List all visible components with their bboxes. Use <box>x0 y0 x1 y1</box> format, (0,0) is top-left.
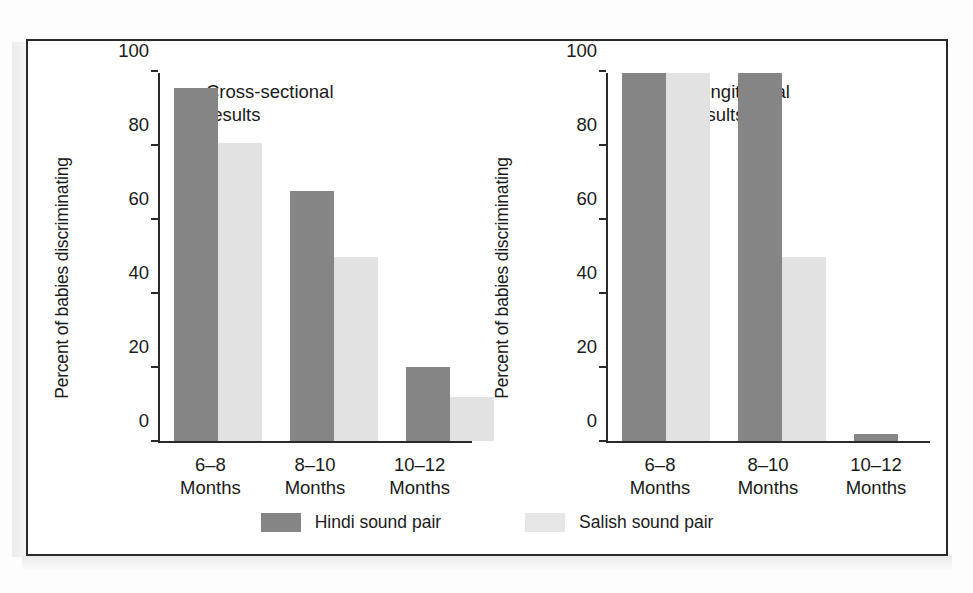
bar-group-6-8-months <box>622 73 710 441</box>
legend-item-hindi[interactable]: Hindi sound pair <box>261 512 441 533</box>
figure-frame: Percent of babies discriminating Cross-s… <box>26 39 948 556</box>
bar-hindi[interactable] <box>622 73 666 441</box>
bar-salish[interactable] <box>666 73 710 441</box>
panel-cross-sectional: Percent of babies discriminating Cross-s… <box>38 53 478 483</box>
legend-item-salish[interactable]: Salish sound pair <box>525 512 713 533</box>
bar-group-6-8-months <box>174 73 262 441</box>
bar-groups-cross-sectional <box>160 73 458 441</box>
x-label-6-8-months: 6–8 Months <box>172 453 249 499</box>
x-label-6-8-months: 6–8 Months <box>620 453 700 499</box>
bar-group-8-10-months <box>290 73 378 441</box>
x-label-8-10-months: 8–10 Months <box>728 453 808 499</box>
legend-swatch-salish-icon <box>525 513 565 532</box>
y-tick-mark <box>151 366 158 368</box>
chart-legend: Hindi sound pair Salish sound pair <box>28 509 946 535</box>
y-axis-label-cross-sectional: Percent of babies discriminating <box>52 113 78 443</box>
y-tick-mark <box>599 70 606 72</box>
bar-salish[interactable] <box>334 257 378 441</box>
scan-page: Percent of babies discriminating Cross-s… <box>0 0 973 593</box>
plot-area-longitudinal: 0 20 40 60 80 100 <box>606 73 916 443</box>
bar-group-10-12-months <box>854 73 942 441</box>
x-label-10-12-months: 10–12 Months <box>836 453 916 499</box>
legend-swatch-hindi-icon <box>261 513 301 532</box>
y-tick-mark <box>599 440 606 442</box>
y-tick-label-100: 100 <box>566 40 597 62</box>
bar-hindi[interactable] <box>174 88 218 441</box>
y-tick-label-100: 100 <box>118 40 149 62</box>
y-tick-label-60: 60 <box>128 188 149 210</box>
y-tick-label-60: 60 <box>576 188 597 210</box>
panel-longitudinal: Percent of babies discriminating Longitu… <box>478 53 940 483</box>
x-label-8-10-months: 8–10 Months <box>277 453 354 499</box>
scan-shadow-bottom <box>22 556 952 570</box>
y-tick-mark <box>151 292 158 294</box>
y-tick-mark <box>151 144 158 146</box>
x-label-10-12-months: 10–12 Months <box>381 453 458 499</box>
y-tick-mark <box>151 70 158 72</box>
bar-hindi[interactable] <box>290 191 334 441</box>
y-tick-label-0: 0 <box>587 410 597 432</box>
x-axis-labels-longitudinal: 6–8 Months 8–10 Months 10–12 Months <box>608 443 916 499</box>
y-tick-mark <box>599 366 606 368</box>
bar-hindi[interactable] <box>854 434 898 441</box>
y-tick-label-80: 80 <box>576 114 597 136</box>
y-tick-mark <box>151 440 158 442</box>
y-tick-label-20: 20 <box>576 336 597 358</box>
bar-salish[interactable] <box>782 257 826 441</box>
bar-hindi[interactable] <box>738 73 782 441</box>
bar-groups-longitudinal <box>608 73 916 441</box>
bar-hindi[interactable] <box>406 367 450 441</box>
bar-salish[interactable] <box>218 143 262 441</box>
plot-area-cross-sectional: 0 20 40 60 80 100 <box>158 73 458 443</box>
legend-label-hindi: Hindi sound pair <box>315 512 441 533</box>
y-tick-mark <box>599 292 606 294</box>
y-tick-mark <box>599 144 606 146</box>
y-axis-label-longitudinal: Percent of babies discriminating <box>492 113 518 443</box>
y-tick-label-80: 80 <box>128 114 149 136</box>
y-tick-label-40: 40 <box>576 262 597 284</box>
legend-label-salish: Salish sound pair <box>579 512 713 533</box>
y-tick-mark <box>151 218 158 220</box>
y-tick-label-40: 40 <box>128 262 149 284</box>
y-tick-label-0: 0 <box>139 410 149 432</box>
y-tick-label-20: 20 <box>128 336 149 358</box>
bar-group-8-10-months <box>738 73 826 441</box>
x-axis-labels-cross-sectional: 6–8 Months 8–10 Months 10–12 Months <box>160 443 458 499</box>
y-tick-mark <box>599 218 606 220</box>
